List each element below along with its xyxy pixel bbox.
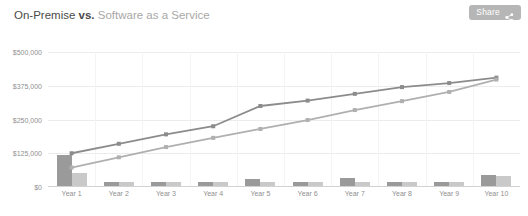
line-series <box>72 78 497 154</box>
title-primary: On-Premise <box>14 9 75 21</box>
y-axis-labels: $0$125,000$250,000$375,000$500,000 <box>0 52 46 187</box>
x-axis-baseline <box>48 186 520 187</box>
data-point-marker <box>70 166 74 170</box>
data-point-marker <box>117 155 121 159</box>
x-axis-tick-label: Year 7 <box>345 190 365 197</box>
y-axis-tick-label: $500,000 <box>13 49 42 56</box>
x-axis-tick-label: Year 4 <box>203 190 223 197</box>
data-point-marker <box>258 104 262 108</box>
x-axis-tick-label: Year 8 <box>392 190 412 197</box>
data-point-marker <box>400 85 404 89</box>
share-button[interactable]: Share <box>469 5 521 20</box>
page-title: On-Premise vs. Software as a Service <box>14 9 210 22</box>
x-axis-tick-label: Year 6 <box>298 190 318 197</box>
data-point-marker <box>306 118 310 122</box>
x-axis-tick-label: Year 10 <box>484 190 508 197</box>
data-point-marker <box>211 136 215 140</box>
data-point-marker <box>117 142 121 146</box>
y-axis-tick-label: $125,000 <box>13 150 42 157</box>
plot-area <box>48 52 520 187</box>
data-point-marker <box>70 151 74 155</box>
data-point-marker <box>353 92 357 96</box>
x-axis-tick-label: Year 5 <box>250 190 270 197</box>
title-secondary: Software as a Service <box>98 9 210 21</box>
title-vs: vs. <box>79 9 95 21</box>
data-point-marker <box>164 132 168 136</box>
widget-header: On-Premise vs. Software as a Service Sha… <box>0 0 528 30</box>
y-axis-tick-label: $375,000 <box>13 82 42 89</box>
share-nodes-icon <box>505 8 514 17</box>
chart-widget: On-Premise vs. Software as a Service Sha… <box>0 0 528 216</box>
share-button-label: Share <box>476 5 500 20</box>
data-point-marker <box>306 99 310 103</box>
x-axis-tick-label: Year 2 <box>109 190 129 197</box>
y-axis-tick-label: $250,000 <box>13 116 42 123</box>
data-point-marker <box>164 145 168 149</box>
x-axis-tick-label: Year 9 <box>439 190 459 197</box>
data-point-marker <box>258 127 262 131</box>
data-point-marker <box>494 78 498 82</box>
data-point-marker <box>400 99 404 103</box>
x-axis-tick-label: Year 3 <box>156 190 176 197</box>
data-point-marker <box>447 81 451 85</box>
data-point-marker <box>211 124 215 128</box>
y-axis-tick-label: $0 <box>34 184 42 191</box>
data-point-marker <box>447 90 451 94</box>
line-series <box>72 80 497 168</box>
line-layer <box>48 52 520 187</box>
data-point-marker <box>353 108 357 112</box>
x-axis-tick-label: Year 1 <box>62 190 82 197</box>
chart-area: $0$125,000$250,000$375,000$500,000 Year … <box>0 30 528 216</box>
x-axis-labels: Year 1Year 2Year 3Year 4Year 5Year 6Year… <box>48 190 520 210</box>
